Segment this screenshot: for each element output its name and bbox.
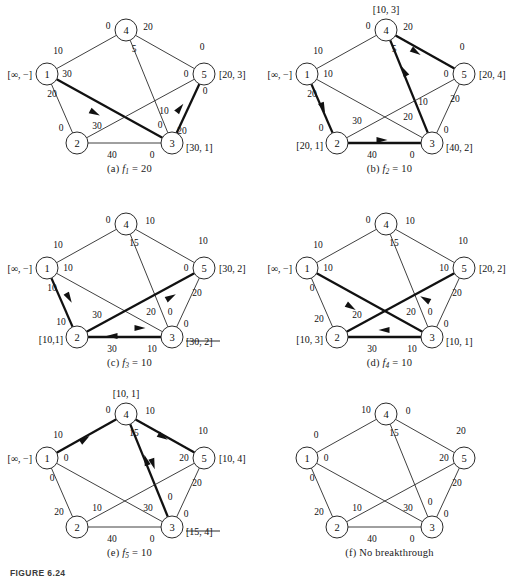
edge-label-1-3-1: 30 [143,503,153,513]
edge-label-2-5-0: 20 [352,310,362,320]
edge-1-4 [317,35,377,68]
node-number-5: 5 [461,263,466,274]
flow-direction-arrow-icon [89,108,100,116]
edge-label-1-3-0: 0 [324,453,329,463]
node-number-1: 1 [304,69,309,80]
edge-label-2-5-1: 0 [184,263,189,273]
node-number-5: 5 [201,263,206,274]
node-number-1: 1 [44,263,49,274]
edge-label-4-5-1: 0 [200,42,205,52]
flow-direction-arrow-icon [345,301,356,309]
edge-label-2-5-1: 20 [439,453,449,463]
edge-label-4-3-1: 0 [168,492,173,502]
node-number-2: 2 [74,522,79,533]
network-flow-panel-c: 10010101501020101030030100201[∞, −]2[10,… [0,202,259,395]
panel-caption-suffix: = 10 [129,357,152,368]
edge-label-2-5-1: 0 [444,69,449,79]
panel-caption-e: (e) f5 = 10 [0,547,259,560]
node-number-1: 1 [44,453,49,464]
node-number-4: 4 [123,219,129,230]
edge-label-3-5-1: 20 [450,94,460,104]
node-flow-label-5: [10, 4] [219,453,246,464]
node-number-2: 2 [74,138,79,149]
network-graph-e: 100101015003002010204000201[∞, −]23[15, … [0,392,259,555]
node-flow-label-5: [20, 2] [479,263,506,274]
edge-label-2-5-0: 10 [92,503,102,513]
edge-1-3 [317,273,423,331]
node-number-3: 3 [169,332,174,343]
edge-label-4-5-0: 10 [405,216,415,226]
edge-label-1-2-0: 0 [310,473,315,483]
node-flow-label-4: [10, 1] [113,388,140,399]
edge-label-2-3-1: 0 [150,534,155,544]
edge-label-4-5-1: 0 [460,42,465,52]
network-flow-panel-a: 1002005030202003004001001[∞, −]23[30, 1]… [0,8,259,201]
edge-4-3 [130,40,168,133]
edge-label-1-4-0: 0 [314,430,319,440]
edge-label-1-4-0: 10 [53,430,63,440]
edge-label-1-4-1: 0 [106,215,111,225]
edge-label-1-4-1: 10 [361,405,371,415]
edge-label-3-5-1: 0 [203,86,208,96]
flow-direction-arrow-icon [379,327,390,333]
node-number-1: 1 [304,453,309,464]
node-number-2: 2 [74,332,79,343]
flow-direction-arrow-icon [107,333,118,339]
edge-label-4-3-1: 0 [428,307,433,317]
edge-label-2-3-0: 40 [367,150,377,160]
edge-label-2-3-1: 10 [147,344,157,354]
node-flow-label-4: [10, 3] [373,4,400,15]
edge-label-4-5-0: 10 [145,216,155,226]
node-flow-label-3: [30, 1] [186,142,213,153]
edge-label-4-3-0: 15 [129,428,139,438]
edge-1-4 [57,35,117,68]
edge-label-4-5-1: 10 [198,236,208,246]
edge-label-1-2-0: 20 [307,89,317,99]
node-number-4: 4 [383,409,389,420]
edge-label-2-5-0: 30 [92,310,102,320]
edge-label-1-4-1: 0 [366,21,371,31]
node-number-4: 4 [383,219,389,230]
edge-label-3-5-0: 0 [444,125,449,135]
network-flow-panel-b: 10020051010202003004000201[∞, −]2[20, 1]… [260,8,519,201]
flow-direction-arrow-icon [174,104,183,115]
node-flow-label-1: [∞, −] [8,263,32,274]
edge-label-1-4-1: 0 [106,405,111,415]
edge-label-1-2-1: 20 [314,314,324,324]
node-number-5: 5 [461,453,466,464]
node-flow-label-2: [20, 1] [296,140,323,151]
figure-sheet: 1002005030202003004001001[∞, −]23[30, 1]… [0,0,519,580]
edge-label-2-5-0: 10 [352,503,362,513]
node-flow-label-2: [10,1] [39,334,63,345]
edge-label-2-3-1: 0 [410,534,415,544]
edge-label-1-3-0: 10 [63,263,73,273]
panel-caption-d: (d) f4 = 10 [260,357,519,370]
edge-label-1-3-0: 10 [323,263,333,273]
edge-label-1-2-0: 0 [50,473,55,483]
edge-label-1-2-1: 20 [314,507,324,517]
network-flow-panel-e: 100101015003002010204000201[∞, −]23[15, … [0,392,259,580]
flow-direction-arrow-icon [165,294,176,302]
edge-1-3 [57,79,163,137]
edge-label-1-3-0: 10 [323,69,333,79]
edge-label-1-3-1: 20 [146,307,156,317]
edge-label-4-3-1: 0 [428,497,433,507]
panel-caption-suffix: = 10 [129,547,152,558]
edge-label-2-5-0: 30 [92,121,102,131]
edge-label-1-2-0: 20 [47,89,57,99]
edge-1-3 [57,273,163,331]
edge-label-3-5-1: 20 [452,478,462,488]
edge-1-4 [57,229,117,262]
panel-caption-prefix: (b) [367,163,383,174]
node-number-3: 3 [429,522,434,533]
edge-label-1-2-0: 10 [47,283,57,293]
panel-caption-f: (f) No breakthrough [260,547,519,558]
edge-label-1-4-0: 10 [313,240,323,250]
network-graph-c: 10010101501020101030030100201[∞, −]2[10,… [0,202,259,365]
edge-label-1-3-0: 30 [62,69,72,79]
node-flow-label-1: [∞, −] [8,69,32,80]
node-number-4: 4 [123,25,129,36]
panel-caption-a: (a) f1 = 20 [0,163,259,176]
edge-1-4 [317,229,377,262]
panel-caption-suffix: = 10 [390,163,413,174]
